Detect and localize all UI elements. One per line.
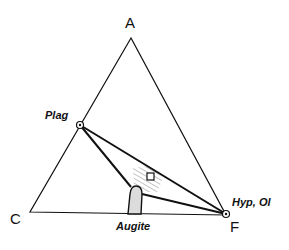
- phase-label-plag: Plag: [45, 109, 68, 121]
- vertex-label-a: A: [125, 14, 135, 31]
- tie-line-plag-augite: [80, 125, 131, 187]
- tie-line-plag-hyp: [80, 125, 226, 214]
- sample-square-marker: [147, 173, 154, 180]
- ternary-triangle: [30, 38, 226, 215]
- vertex-label-f: F: [230, 218, 239, 235]
- acf-diagram: [0, 0, 289, 250]
- augite-field: [128, 186, 142, 214]
- phase-label-hyp-ol: Hyp, Ol: [232, 196, 271, 208]
- vertex-label-c: C: [10, 210, 21, 227]
- phase-label-augite: Augite: [116, 220, 150, 232]
- tie-line-augite-hyp: [142, 194, 226, 214]
